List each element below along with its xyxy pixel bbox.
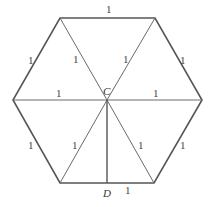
spoke-upper-left	[60, 18, 107, 100]
label-spoke-upper-right: 1	[123, 53, 129, 65]
spoke-lower-left	[60, 100, 107, 183]
spoke-lower-right	[107, 100, 154, 183]
hexagon-diagram: 1 1 1 1 1 1 1 1 1 1 1 1 C D	[0, 0, 208, 207]
label-spoke-left: 1	[56, 87, 62, 99]
label-spoke-right: 1	[153, 87, 159, 99]
spoke-upper-right	[107, 18, 155, 100]
label-spoke-lower-right: 1	[138, 139, 144, 151]
label-lower-left-edge: 1	[28, 139, 34, 151]
label-bottom-right-half: 1	[125, 184, 131, 196]
label-top-edge: 1	[106, 3, 112, 15]
label-spoke-upper-left: 1	[73, 53, 79, 65]
label-upper-right-edge: 1	[180, 54, 186, 66]
label-lower-right-edge: 1	[180, 139, 186, 151]
point-label-c: C	[103, 85, 111, 97]
point-label-d: D	[102, 187, 111, 199]
label-spoke-lower-left: 1	[72, 139, 78, 151]
label-upper-left-edge: 1	[28, 54, 34, 66]
